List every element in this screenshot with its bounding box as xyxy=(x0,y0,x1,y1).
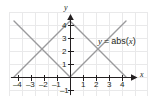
y-tick-label-1: 1 xyxy=(62,61,66,69)
equation-annotation: y=abs(x) xyxy=(98,37,136,46)
equation-function-name: abs xyxy=(111,36,126,46)
equation-operator: = xyxy=(104,36,109,46)
y-axis xyxy=(67,14,74,95)
x-tick-label--3: –3 xyxy=(26,81,35,89)
equation-lhs: y xyxy=(98,36,102,46)
x-tick-label-1: 1 xyxy=(81,81,85,89)
x-tick-label-3: 3 xyxy=(107,81,111,89)
y-tick-label-3: 3 xyxy=(62,35,66,43)
figure-container: –4 –3 –2 –1 1 2 3 4 –1 1 2 3 4 y x y=abs… xyxy=(0,0,156,104)
equation-close-paren: ) xyxy=(133,36,136,46)
x-tick-label-2: 2 xyxy=(94,81,98,89)
x-tick-label--2: –2 xyxy=(39,81,48,89)
y-tick-label-4: 4 xyxy=(62,22,66,30)
coordinate-plane xyxy=(0,0,156,104)
x-tick-label--4: –4 xyxy=(13,81,22,89)
y-tick-label--1: –1 xyxy=(60,87,69,95)
y-axis-label: y xyxy=(64,4,68,12)
y-tick-label-2: 2 xyxy=(62,48,66,56)
x-axis-label: x xyxy=(140,71,144,79)
x-tick-label-4: 4 xyxy=(120,81,124,89)
